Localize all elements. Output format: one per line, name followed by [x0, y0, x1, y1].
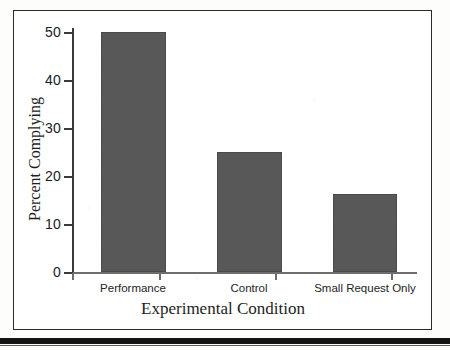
x-tick-1 [159, 273, 161, 280]
y-tick-20 [64, 176, 73, 178]
y-axis-line [72, 28, 74, 273]
y-axis-title: Percent Complying [26, 61, 44, 221]
bar-performance [101, 32, 166, 272]
figure-frame: 50 40 30 20 10 0 Performance [13, 10, 432, 330]
y-tick-label-0-wrap: 0 [23, 264, 61, 280]
x-axis-title: Experimental Condition [141, 299, 305, 319]
x-tick-2 [275, 273, 277, 280]
x-category-label-small-request-only: Small Request Only [314, 282, 416, 294]
x-axis-line [72, 272, 417, 274]
y-tick-label-50-wrap: 50 [23, 24, 61, 40]
y-tick-30 [64, 128, 73, 130]
x-category-label-performance: Performance [100, 282, 166, 294]
bar-control [217, 152, 282, 272]
page-bottom-rule-thin [0, 345, 450, 346]
x-tick-left [72, 273, 74, 280]
figure-page: 50 40 30 20 10 0 Performance [0, 0, 450, 350]
x-category-label-control: Control [230, 282, 267, 294]
y-tick-40 [64, 80, 73, 82]
y-tick-50 [64, 32, 73, 34]
x-axis-title-wrap: Experimental Condition [1, 299, 450, 319]
y-tick-label-50: 50 [27, 24, 61, 40]
x-tick-3 [391, 273, 393, 280]
bar-small-request-only [333, 194, 397, 272]
y-tick-10 [64, 224, 73, 226]
page-bottom-rule [0, 338, 450, 344]
y-tick-label-0: 0 [27, 264, 61, 280]
